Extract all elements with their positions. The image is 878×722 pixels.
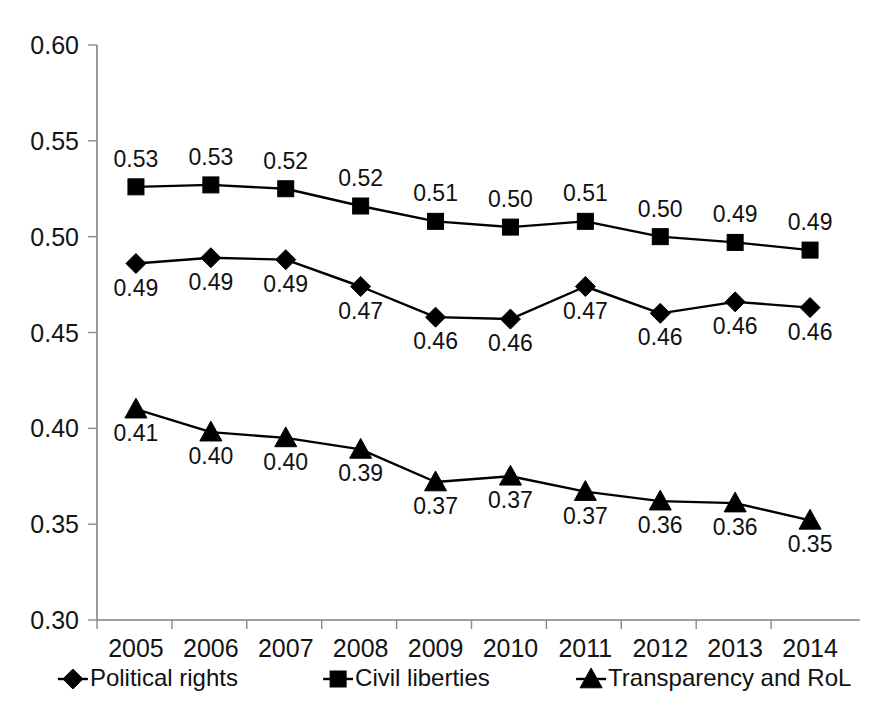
- data-point-label: 0.51: [413, 180, 458, 206]
- data-point-marker: [203, 177, 219, 193]
- data-point-label: 0.46: [788, 319, 833, 345]
- chart-legend: Political rightsCivil libertiesTranspare…: [58, 664, 851, 691]
- y-tick-label: 0.55: [30, 127, 79, 155]
- data-point-label: 0.36: [713, 514, 758, 540]
- line-chart: 0.300.350.400.450.500.550.60 20052006200…: [0, 0, 878, 722]
- data-point-label: 0.37: [413, 493, 458, 519]
- data-point-label: 0.50: [638, 196, 683, 222]
- x-tick-label: 2011: [558, 634, 612, 662]
- y-tick-label: 0.30: [30, 606, 79, 634]
- x-tick-label: 2013: [707, 634, 763, 662]
- x-axis: 2005200620072008200920102011201220132014: [97, 620, 860, 662]
- x-tick-label: 2012: [632, 634, 688, 662]
- data-point-marker: [128, 179, 144, 195]
- series-layer: [125, 177, 821, 529]
- data-point-marker: [650, 303, 670, 323]
- data-point-label: 0.49: [114, 275, 159, 301]
- data-point-label: 0.49: [263, 271, 308, 297]
- y-tick-label: 0.40: [30, 414, 79, 442]
- legend-item-transparency-and-rol[interactable]: Transparency and RoL: [576, 664, 851, 691]
- data-point-label: 0.52: [263, 148, 308, 174]
- data-point-label: 0.37: [488, 487, 533, 513]
- data-label-layer: 0.490.490.490.470.460.460.470.460.460.46…: [114, 144, 833, 557]
- data-point-label: 0.50: [488, 186, 533, 212]
- legend-label: Civil liberties: [355, 664, 490, 691]
- data-point-marker: [426, 307, 446, 327]
- data-point-label: 0.41: [114, 420, 159, 446]
- data-point-marker: [575, 277, 595, 297]
- data-point-label: 0.52: [338, 165, 383, 191]
- data-point-marker: [200, 421, 222, 441]
- data-point-label: 0.40: [263, 449, 308, 475]
- data-point-marker: [499, 465, 521, 485]
- data-point-label: 0.47: [338, 298, 383, 324]
- data-point-marker: [502, 219, 518, 235]
- legend-item-political-rights[interactable]: Political rights: [58, 664, 238, 691]
- data-point-label: 0.49: [788, 209, 833, 235]
- data-point-label: 0.53: [114, 146, 159, 172]
- data-point-marker: [725, 292, 745, 312]
- chart-canvas: 0.300.350.400.450.500.550.60 20052006200…: [0, 0, 878, 722]
- data-point-marker: [800, 298, 820, 318]
- legend-label: Transparency and RoL: [608, 664, 851, 691]
- x-tick-label: 2009: [408, 634, 464, 662]
- data-point-label: 0.47: [563, 298, 608, 324]
- y-tick-label: 0.50: [30, 223, 79, 251]
- data-point-marker: [276, 250, 296, 270]
- legend-marker-square-icon: [330, 671, 346, 687]
- data-point-marker: [351, 277, 371, 297]
- legend-item-civil-liberties[interactable]: Civil liberties: [323, 664, 490, 691]
- data-point-marker: [125, 398, 147, 418]
- series-line: [136, 258, 810, 319]
- y-tick-label: 0.60: [30, 31, 79, 59]
- data-point-label: 0.40: [188, 443, 233, 469]
- legend-marker-diamond-icon: [63, 669, 83, 689]
- data-point-label: 0.51: [563, 180, 608, 206]
- legend-label: Political rights: [90, 664, 238, 691]
- y-axis: 0.300.350.400.450.500.550.60: [30, 31, 97, 634]
- x-tick-label: 2008: [333, 634, 389, 662]
- x-tick-label: 2007: [258, 634, 314, 662]
- data-point-marker: [652, 229, 668, 245]
- data-point-marker: [201, 248, 221, 268]
- data-point-marker: [802, 242, 818, 258]
- x-tick-label: 2006: [183, 634, 239, 662]
- data-point-label: 0.46: [488, 330, 533, 356]
- data-point-label: 0.49: [713, 201, 758, 227]
- x-tick-label: 2005: [108, 634, 164, 662]
- data-point-label: 0.39: [338, 460, 383, 486]
- data-point-label: 0.35: [788, 531, 833, 557]
- data-point-marker: [353, 198, 369, 214]
- data-point-marker: [577, 213, 593, 229]
- x-tick-label: 2010: [483, 634, 539, 662]
- data-point-marker: [428, 213, 444, 229]
- data-point-label: 0.46: [638, 324, 683, 350]
- y-tick-label: 0.35: [30, 510, 79, 538]
- data-point-marker: [278, 181, 294, 197]
- x-tick-label: 2014: [782, 634, 838, 662]
- data-point-label: 0.53: [188, 144, 233, 170]
- series-line: [136, 185, 810, 250]
- y-tick-label: 0.45: [30, 319, 79, 347]
- data-point-marker: [727, 234, 743, 250]
- data-point-marker: [500, 309, 520, 329]
- series-line: [136, 409, 810, 520]
- data-point-label: 0.49: [188, 269, 233, 295]
- data-point-marker: [126, 254, 146, 274]
- data-point-label: 0.46: [413, 328, 458, 354]
- data-point-label: 0.46: [713, 313, 758, 339]
- data-point-label: 0.36: [638, 512, 683, 538]
- data-point-label: 0.37: [563, 503, 608, 529]
